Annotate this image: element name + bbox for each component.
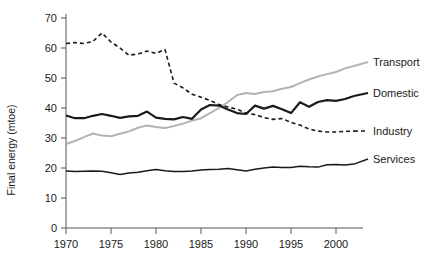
y-tick-label: 0 (51, 222, 57, 234)
x-tick-label: 1980 (144, 238, 168, 250)
x-tick-label: 1970 (54, 238, 78, 250)
x-tick-label: 1995 (279, 238, 303, 250)
legend-label-domestic: Domestic (373, 87, 419, 99)
y-axis-title: Final energy (mtoe) (5, 104, 17, 195)
x-axis-tick-marks (66, 228, 336, 234)
y-tick-label: 30 (45, 132, 57, 144)
series-lines (66, 33, 354, 175)
legend-label-industry: Industry (373, 125, 413, 137)
x-tick-label: 1990 (234, 238, 258, 250)
y-axis-title-group: Final energy (mtoe) (5, 104, 17, 195)
y-tick-label: 50 (45, 72, 57, 84)
y-axis-tick-marks (61, 18, 66, 228)
y-tick-label: 20 (45, 162, 57, 174)
x-axis-tick-labels: 1970197519801985199019952000 (54, 238, 348, 250)
x-tick-label: 1975 (99, 238, 123, 250)
y-tick-label: 10 (45, 192, 57, 204)
legend: TransportDomesticIndustryServices (354, 56, 420, 165)
chart-container: Final energy (mtoe) 010203040506070 1970… (0, 0, 427, 267)
line-chart: Final energy (mtoe) 010203040506070 1970… (0, 0, 427, 267)
y-tick-label: 70 (45, 12, 57, 24)
x-tick-label: 1985 (189, 238, 213, 250)
legend-leader-transport (354, 62, 368, 66)
series-line-industry (66, 33, 354, 132)
y-axis-tick-labels: 010203040506070 (45, 12, 57, 234)
y-tick-label: 60 (45, 42, 57, 54)
y-tick-label: 40 (45, 102, 57, 114)
legend-leader-services (354, 159, 368, 164)
legend-leader-domestic (354, 93, 368, 96)
series-line-services (66, 164, 354, 175)
x-tick-label: 2000 (324, 238, 348, 250)
legend-label-services: Services (373, 153, 416, 165)
series-line-domestic (66, 96, 354, 119)
legend-label-transport: Transport (373, 56, 420, 68)
